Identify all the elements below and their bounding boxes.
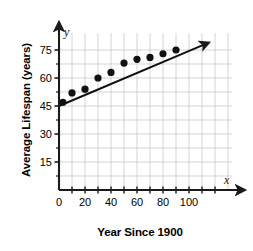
axis-ticks xyxy=(55,50,216,194)
chart-container: Average Lifespan (years) Year Since 1900… xyxy=(0,0,253,251)
axis-lines xyxy=(59,27,240,190)
trend-line xyxy=(59,44,205,106)
gridlines xyxy=(59,33,232,190)
y-axis-symbol: y xyxy=(63,25,70,39)
x-axis-symbol: x xyxy=(223,173,230,187)
data-points xyxy=(59,46,179,105)
plot-area: y x xyxy=(0,0,253,251)
